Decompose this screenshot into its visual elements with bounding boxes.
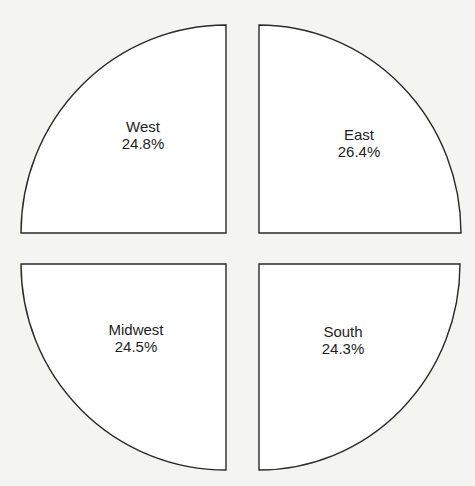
slice-name-midwest: Midwest bbox=[108, 321, 163, 338]
slice-value-west: 24.8% bbox=[122, 135, 165, 152]
slice-label-south: South 24.3% bbox=[322, 323, 365, 357]
slice-south bbox=[259, 264, 460, 470]
slice-name-west: West bbox=[122, 118, 165, 135]
slice-midwest bbox=[21, 264, 226, 470]
slice-label-east: East 26.4% bbox=[338, 126, 381, 160]
slice-value-south: 24.3% bbox=[322, 340, 365, 357]
slice-label-west: West 24.8% bbox=[122, 118, 165, 152]
pie-chart: West 24.8% East 26.4% Midwest 24.5% Sout… bbox=[0, 0, 475, 486]
slice-value-midwest: 24.5% bbox=[108, 338, 163, 355]
slice-label-midwest: Midwest 24.5% bbox=[108, 321, 163, 355]
slice-value-east: 26.4% bbox=[338, 143, 381, 160]
slice-name-south: South bbox=[322, 323, 365, 340]
pie-chart-graphic bbox=[0, 0, 475, 486]
slice-name-east: East bbox=[338, 126, 381, 143]
